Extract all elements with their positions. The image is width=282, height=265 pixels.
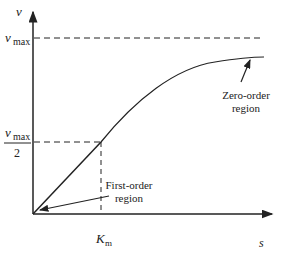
zero-order-label-line2: region [232,102,261,114]
first-order-arrow [40,196,109,210]
zero-order-label-line1: Zero-order [222,89,270,101]
michaelis-menten-diagram: v s v max v max 2 K m Zero-order region … [0,0,282,265]
y-axis-label: v [16,4,22,19]
half-vmax-numerator-sub: max [13,131,30,142]
first-order-label-line2: region [115,192,144,204]
first-order-label-line1: First-order [105,179,152,191]
half-vmax-denominator: 2 [14,146,20,160]
x-axis-label: s [259,236,264,250]
vmax-label: v [5,30,11,45]
zero-order-arrow [241,60,250,82]
km-label-sub: m [105,238,112,248]
half-vmax-numerator: v [5,125,11,140]
vmax-label-sub: max [13,36,30,47]
first-order-curve-segment [33,142,101,214]
